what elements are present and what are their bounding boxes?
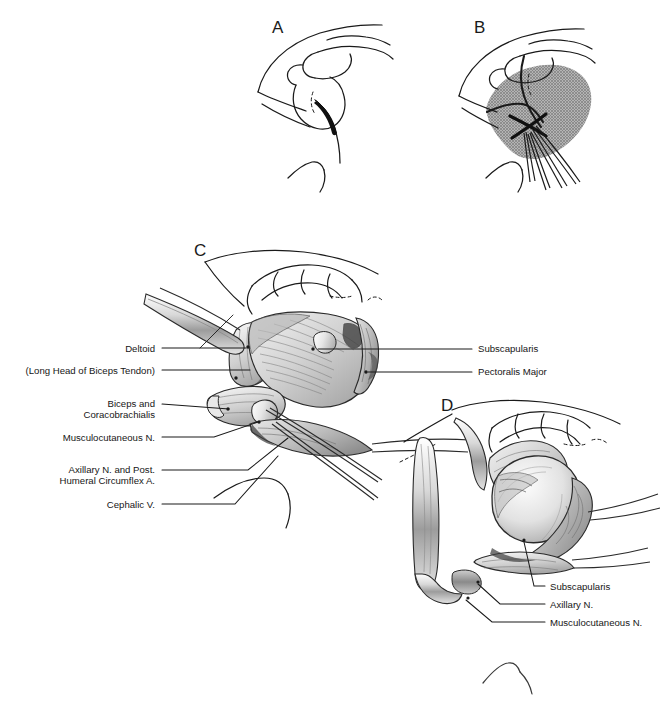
panel-letter-c: C (194, 241, 206, 261)
label-subscapularis-panel-d: Subscapularis (550, 581, 610, 592)
label-biceps-and-coracobrachialis: Biceps and Coracobrachialis (0, 398, 155, 421)
anatomical-figure: A B C D Deltoid (Long Head of Biceps Ten… (0, 0, 665, 707)
panel-c-retractor-blade (144, 288, 244, 354)
label-long-head-biceps-tendon: (Long Head of Biceps Tendon) (0, 365, 155, 376)
panel-a-drawing (258, 25, 393, 192)
panel-b-drawing (459, 29, 595, 192)
vessel-loop (314, 332, 336, 354)
label-musculocutaneous-nerve: Musculocutaneous N. (0, 432, 155, 443)
panel-d-drawing (400, 400, 660, 694)
panel-letter-d: D (441, 396, 453, 416)
label-deltoid: Deltoid (12, 343, 155, 354)
label-axillary-nerve-panel-d: Axillary N. (550, 599, 593, 610)
panel-letter-a: A (272, 18, 284, 38)
label-musculocutaneous-nerve-panel-d: Musculocutaneous N. (550, 617, 642, 628)
panel-letter-b: B (474, 18, 486, 38)
label-pectoralis-major: Pectoralis Major (478, 366, 547, 377)
label-subscapularis-panel-c: Subscapularis (478, 343, 538, 354)
panel-d-retractor-second (454, 418, 487, 490)
label-axillary-nerve-and-post-humeral-circumflex-artery: Axillary N. and Post. Humeral Circumflex… (0, 464, 155, 487)
label-cephalic-vein: Cephalic V. (0, 499, 155, 510)
